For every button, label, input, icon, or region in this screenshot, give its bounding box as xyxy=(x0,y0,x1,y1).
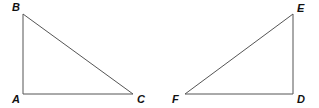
vertex-label-b: B xyxy=(12,1,20,13)
triangle-abc-outline xyxy=(23,14,133,94)
triangle-def: E F D xyxy=(172,2,305,105)
vertex-label-f: F xyxy=(172,93,179,105)
two-right-triangles-diagram: B A C E F D xyxy=(0,0,319,108)
triangle-abc: B A C xyxy=(11,1,146,105)
vertex-label-a: A xyxy=(11,93,20,105)
vertex-label-d: D xyxy=(297,93,305,105)
vertex-label-c: C xyxy=(137,93,146,105)
triangle-def-outline xyxy=(185,14,293,94)
vertex-label-e: E xyxy=(297,2,305,14)
